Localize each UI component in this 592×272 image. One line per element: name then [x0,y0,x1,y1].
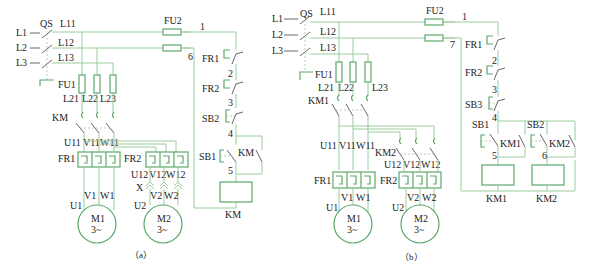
l11-b-label: L11 [320,6,336,17]
fr1-b-nc-label: FR1 [465,39,482,50]
u11-label: U11 [64,137,81,148]
l22-label: L22 [82,93,98,104]
fr2-nc-label: FR2 [202,83,219,94]
node-b-4-label: 4 [492,112,497,123]
km1-main-label: KM1 [308,95,329,106]
km-coil-icon [220,182,252,202]
u1-label: U1 [70,200,82,211]
node-b-2-label: 2 [492,55,497,66]
diagram-b: L1 L2 L3 QS L11 L12 L13 FU1 L21 L22 L23 [272,5,575,262]
fu1-fuse-icon [79,75,116,93]
fr1-b-nc-contact-icon [487,36,505,50]
l12-label: L12 [58,37,74,48]
sb1-b-start-button-icon [481,134,498,147]
node-5-label: 5 [228,165,233,176]
m2-name: M2 [157,213,171,224]
motor-m2-b-icon: M2 3~ [401,205,439,243]
fr2-b-nc-label: FR2 [465,67,482,78]
circuit-diagram: L1 L2 L3 QS L11 L12 L13 FU1 L21 [0,0,592,272]
supply-b-l1-label: L1 [272,13,283,24]
sb2-stop-button-icon [226,110,243,124]
motor-m1-icon: M1 3~ [78,205,116,243]
w1-label: W1 [100,190,114,201]
schematic-canvas: L1 L2 L3 QS L11 L12 L13 FU1 L21 [0,0,592,272]
node-b-1-label: 1 [462,11,467,22]
km1-coil-icon [482,165,514,185]
fr1-nc-label: FR1 [202,53,219,64]
km-hold-contact-icon [256,150,262,162]
l23-b-label: L23 [372,82,388,93]
node-b-3-label: 3 [492,84,497,95]
v12-b-label: V12 [403,159,420,170]
km2-main-label: KM2 [375,147,396,158]
km2-main-contacts-icon [396,138,438,160]
sb2-b-start-label: SB2 [527,119,544,130]
motor-m2-icon: M2 3~ [144,205,182,243]
node-6-label: 6 [188,51,193,62]
sb3-stop-label: SB3 [465,99,482,110]
qs-b-label: QS [300,8,313,19]
fu1-label: FU1 [58,79,76,90]
w12-label: W12 [166,169,185,180]
v2-b-label: V2 [407,192,419,203]
fu2-label: FU2 [164,15,182,26]
sb1-b-start-label: SB1 [472,119,489,130]
motor-m1-b-icon: M1 3~ [334,205,372,243]
fr2-nc-contact-icon [224,80,243,94]
fr1-b-thermal-relay-icon [333,172,375,188]
fu2-b-fuse-icon [425,19,443,41]
u2-label: U2 [134,200,146,211]
qs-switch-icon [40,30,54,86]
m2-type: 3~ [157,224,168,235]
km-main-contacts-icon [76,112,114,133]
caption-b: （b） [400,252,423,262]
sb1-start-button-icon [220,150,236,162]
fu2-b-label: FU2 [426,5,444,16]
fu1-b-label: FU1 [315,69,333,80]
node-3-label: 3 [228,97,233,108]
fu2-fuse-icon [163,29,181,51]
u11-b-label: U11 [320,140,337,151]
diagram-a: L1 L2 L3 QS L11 L12 L13 FU1 L21 [16,15,262,260]
caption-a: （a） [130,250,152,260]
fr2-label: FR2 [124,153,141,164]
qs-b-switch-icon [300,16,313,80]
fr1-thermal-relay-icon [78,152,120,167]
m2-b-type: 3~ [414,224,425,235]
w11-label: W11 [100,137,119,148]
u1-b-label: U1 [326,202,338,213]
m2-b-name: M2 [414,213,428,224]
node-1-label: 1 [200,21,205,32]
v1-label: V1 [84,190,96,201]
node-b-7-label: 7 [450,39,455,50]
w2-b-label: W2 [422,192,436,203]
fr1-nc-contact-icon [224,50,243,64]
km1-main-contacts-icon [332,95,368,116]
m1-name: M1 [91,213,105,224]
u12-b-label: U12 [384,159,401,170]
supply-l3-label: L3 [16,57,27,68]
l12-b-label: L12 [320,26,336,37]
sb3-stop-button-icon [489,97,505,111]
km1-coil-label: KM1 [486,193,507,204]
m1-type: 3~ [91,224,102,235]
v11-b-label: V11 [339,140,356,151]
km1-hold-label: KM1 [500,138,521,149]
l21-label: L21 [63,93,79,104]
sb2-b-start-button-icon [531,134,547,147]
km2-hold-label: KM2 [549,138,570,149]
fr2-b-nc-contact-icon [487,66,505,80]
supply-l2-label: L2 [16,42,27,53]
l21-b-label: L21 [318,82,334,93]
l23-label: L23 [100,93,116,104]
fu1-b-fuse-icon [336,62,371,82]
sb1-start-label: SB1 [199,151,216,162]
plug-connector-icon [146,182,182,189]
u12-label: U12 [131,169,148,180]
node-2-label: 2 [228,68,233,79]
node-b-5-label: 5 [492,150,497,161]
v2-label: V2 [150,190,162,201]
km2-coil-label: KM2 [536,193,557,204]
l13-label: L13 [58,52,74,63]
supply-b-l3-label: L3 [272,45,283,56]
